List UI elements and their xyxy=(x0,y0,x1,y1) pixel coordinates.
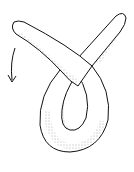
figure xyxy=(0,0,134,172)
tube-back-strand xyxy=(78,13,126,66)
down-arrow-icon xyxy=(8,48,16,82)
tube-front-strand xyxy=(12,21,92,86)
tube-knot-illustration xyxy=(0,0,134,172)
